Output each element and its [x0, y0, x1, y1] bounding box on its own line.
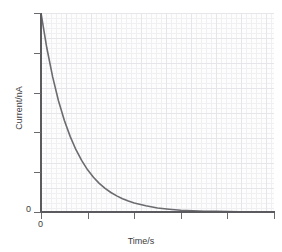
decay-curve-svg	[41, 13, 274, 212]
y-tick-5	[34, 13, 41, 14]
chart-figure: 0 0 Time/s Current/nA	[0, 0, 282, 252]
x-tick-4	[227, 213, 228, 219]
decay-curve-line	[41, 13, 274, 212]
y-tick-0	[34, 212, 41, 213]
x-axis-title: Time/s	[0, 236, 282, 246]
y-tick-3	[34, 93, 41, 94]
x-tick-5	[274, 213, 275, 219]
x-tick-2	[134, 213, 135, 219]
x-tick-1	[88, 213, 89, 219]
y-axis-origin-label: 0	[26, 204, 31, 214]
y-tick-1	[34, 172, 41, 173]
y-tick-2	[34, 132, 41, 133]
x-axis-origin-label: 0	[38, 219, 43, 229]
y-axis-title: Current/nA	[14, 63, 24, 153]
y-axis-line	[40, 13, 42, 213]
y-tick-4	[34, 53, 41, 54]
x-tick-3	[181, 213, 182, 219]
x-axis-line	[40, 211, 275, 213]
plot-area	[41, 13, 274, 212]
